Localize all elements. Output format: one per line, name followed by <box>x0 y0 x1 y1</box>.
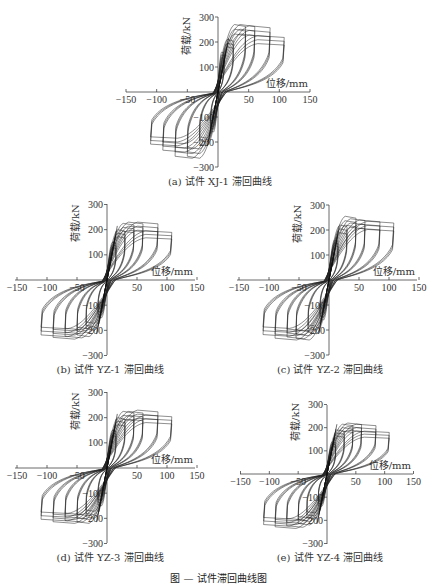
y-tick-label: 300 <box>308 399 323 410</box>
y-tick-label: 100 <box>308 445 323 456</box>
hysteresis-curves <box>264 423 390 528</box>
x-tick-label: 50 <box>351 476 361 487</box>
chart-e: −150−100−5050100150300200100−100−200−300… <box>230 399 421 549</box>
x-tick-label: −100 <box>259 476 280 487</box>
y-tick-label: −300 <box>302 538 323 549</box>
x-tick-label: 150 <box>406 476 421 487</box>
y-tick-label: 200 <box>308 422 323 433</box>
y-axis-label: 荷载/kN <box>290 403 301 441</box>
x-tick-label: 100 <box>377 476 392 487</box>
figure-caption: 图 — 试件滞回曲线图 <box>0 570 437 585</box>
x-tick-label: −150 <box>230 476 251 487</box>
chart-caption-e: (e) 试件 YZ-4 滞回曲线 <box>250 549 410 564</box>
